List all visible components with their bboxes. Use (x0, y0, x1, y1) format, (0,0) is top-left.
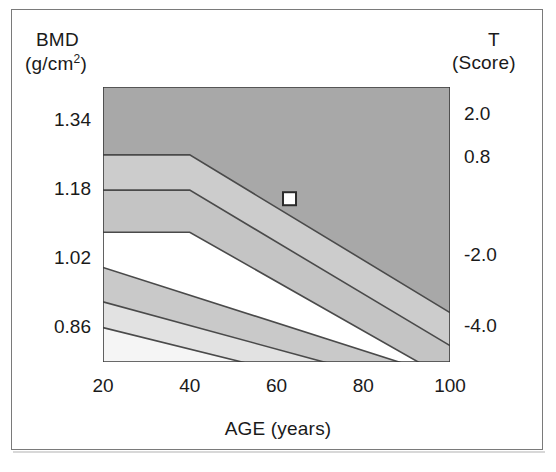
y2-axis-tick-label: 2.0 (464, 103, 534, 125)
y-axis-unit-suffix: ) (80, 53, 87, 74)
y-axis-unit-prefix: (g/cm (25, 53, 74, 74)
x-axis-tick-label: 80 (333, 375, 393, 397)
figure-root: BMD (g/cm2) T (Score) AGE (years) 1.341.… (0, 0, 556, 472)
x-axis-title-age: AGE (years) (0, 418, 556, 440)
data-point-marker[interactable] (283, 192, 296, 205)
x-axis-tick-label: 20 (73, 375, 133, 397)
y2-axis-tick-label: -4.0 (464, 315, 534, 337)
y-axis-unit-bmd: (g/cm2) (25, 52, 87, 75)
x-axis-tick-label: 40 (160, 375, 220, 397)
x-axis-tick-label: 100 (420, 375, 480, 397)
y2-axis-tick-label: 0.8 (464, 146, 534, 168)
plot-area (103, 87, 450, 362)
y-axis-tick-label: 1.18 (21, 178, 91, 200)
y2-axis-title-t: T (488, 29, 500, 51)
y2-axis-tick-label: -2.0 (464, 244, 534, 266)
y2-axis-unit-score: (Score) (452, 52, 516, 74)
y-axis-tick-label: 1.02 (21, 247, 91, 269)
figure-frame-shadow (13, 451, 545, 453)
chart-svg (103, 87, 450, 362)
y-axis-tick-label: 0.86 (21, 316, 91, 338)
y-axis-title-bmd: BMD (36, 29, 79, 51)
y-axis-tick-label: 1.34 (21, 109, 91, 131)
x-axis-tick-label: 60 (247, 375, 307, 397)
